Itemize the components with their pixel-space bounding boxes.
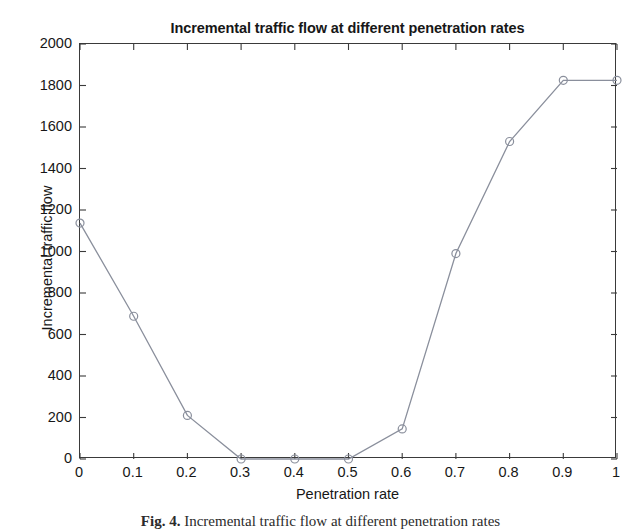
y-tick-label: 200	[10, 409, 72, 425]
plot-svg	[80, 44, 617, 459]
x-tick-label: 0.5	[318, 464, 378, 480]
y-axis-label: Incremental traffic flow	[39, 128, 55, 388]
y-tick-label: 1800	[10, 77, 72, 93]
x-tick-label: 0.1	[103, 464, 163, 480]
chart-title: Incremental traffic flow at different pe…	[79, 20, 616, 36]
y-tick-label: 2000	[10, 35, 72, 51]
x-tick-label: 0	[49, 464, 109, 480]
x-axis-label: Penetration rate	[79, 486, 616, 502]
x-tick-label: 1	[586, 464, 641, 480]
x-tick-label: 0.2	[156, 464, 216, 480]
caption-figure-number: Fig. 4.	[141, 513, 181, 529]
data-series-line	[80, 80, 617, 459]
axis-tick-marks	[80, 44, 617, 459]
data-point-markers	[76, 76, 621, 463]
x-tick-label: 0.7	[425, 464, 485, 480]
x-tick-label: 0.9	[532, 464, 592, 480]
x-tick-label: 0.3	[210, 464, 270, 480]
figure-caption: Fig. 4. Incremental traffic flow at diff…	[0, 513, 641, 530]
figure-container: Incremental traffic flow at different pe…	[0, 0, 641, 532]
x-tick-label: 0.6	[371, 464, 431, 480]
x-axis-tick-labels: 00.10.20.30.40.50.60.70.80.91	[79, 464, 616, 486]
caption-text: Incremental traffic flow at different pe…	[184, 513, 500, 529]
x-tick-label: 0.8	[479, 464, 539, 480]
x-tick-label: 0.4	[264, 464, 324, 480]
plot-area	[79, 43, 616, 458]
